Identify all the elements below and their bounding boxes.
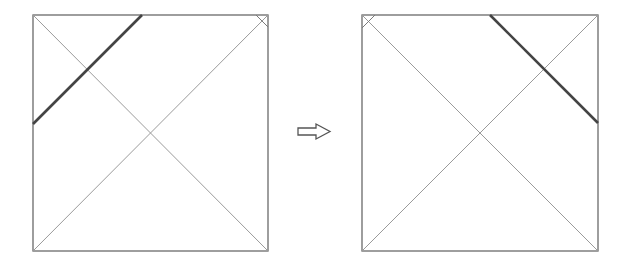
- square-before: [33, 15, 268, 251]
- square-after: [362, 15, 598, 251]
- right-arrow-icon: [298, 124, 330, 139]
- transformation-diagram: [0, 0, 630, 264]
